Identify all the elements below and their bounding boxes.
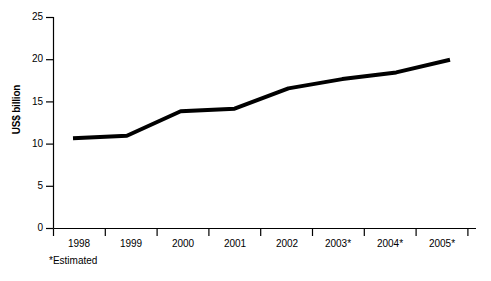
y-tick-label-15: 15 (21, 97, 43, 107)
y-tick-label-10: 10 (21, 139, 43, 149)
line-chart: US$ billion 25 20 15 10 5 0 1998 1999 20… (0, 0, 491, 281)
y-axis-ticks (46, 18, 54, 229)
x-tick-label-2002: 2002 (261, 239, 313, 249)
x-tick-label-2000: 2000 (157, 239, 209, 249)
y-tick-label-25: 25 (21, 12, 43, 22)
x-tick-label-2001: 2001 (209, 239, 261, 249)
x-tick-label-2003: 2003* (312, 239, 364, 249)
y-tick-label-20: 20 (21, 54, 43, 64)
data-series-line (73, 60, 450, 139)
footnote-estimated: *Estimated (49, 255, 97, 266)
y-tick-label-5: 5 (21, 181, 43, 191)
x-tick-label-2004: 2004* (364, 239, 416, 249)
x-tick-label-1999: 1999 (105, 239, 157, 249)
y-tick-label-0: 0 (21, 223, 43, 233)
y-axis-title: US$ billion (11, 60, 22, 160)
x-axis-ticks (54, 229, 468, 237)
x-tick-label-2005: 2005* (416, 239, 468, 249)
x-tick-label-1998: 1998 (53, 239, 105, 249)
